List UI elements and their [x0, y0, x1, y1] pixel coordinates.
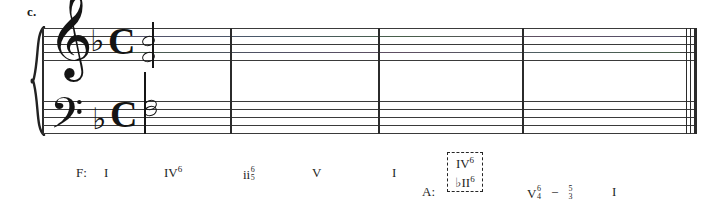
treble-clef-icon: 𝄞	[48, 0, 93, 72]
key-signature-flat-treble-icon: ♭	[90, 26, 104, 56]
figure-resolution-dash: –	[552, 185, 558, 197]
music-exercise-sheet: c. 𝄞 𝄢	[0, 0, 719, 200]
staff-line	[43, 36, 697, 37]
staff-line	[43, 44, 697, 45]
pivot-chord-old-key: IV6	[448, 157, 482, 170]
chord-numeral: I	[104, 165, 108, 180]
chord-symbol-5: I	[392, 166, 396, 179]
barline-3	[522, 28, 524, 134]
barline-2	[378, 28, 380, 134]
chord-symbol-2: IV6	[164, 166, 182, 179]
staff-line	[43, 52, 697, 53]
figure-lower: 5	[251, 174, 255, 182]
pivot-chord-new-key: ♭II6	[448, 176, 482, 189]
figured-bass-stack: 53	[569, 185, 573, 200]
figure-lower: 4	[537, 193, 541, 200]
staff-line	[43, 28, 697, 29]
modulation-key-label: A:	[422, 185, 435, 198]
figured-bass-stack: 65	[251, 166, 255, 182]
chord-figure: 6	[470, 155, 475, 165]
chord-numeral: IV	[164, 165, 178, 180]
final-chord-symbol: I	[612, 185, 616, 198]
roman-numeral-analysis: F: I IV6 ii65 V I A: V64 – 53	[0, 150, 719, 200]
final-barline-thin	[686, 28, 687, 134]
staff-line	[43, 117, 697, 118]
grand-staff-system: 𝄞 𝄢 ♭ ♭ C C	[0, 0, 719, 150]
chord-symbol-4: V	[312, 166, 321, 179]
staff-line	[43, 60, 697, 61]
final-barline-thick	[694, 28, 697, 134]
key-signature-flat-bass-icon: ♭	[92, 104, 106, 134]
chord-numeral: I	[612, 184, 616, 199]
cadential-six-four-symbol: V64	[527, 185, 541, 200]
staff-line	[43, 125, 697, 126]
barline-1	[230, 28, 232, 134]
chord-figure: 6	[178, 164, 183, 174]
time-signature-treble: C	[108, 22, 135, 60]
treble-staff	[43, 28, 697, 60]
chord-numeral: V	[527, 186, 536, 200]
chord-figure: 6	[470, 174, 475, 184]
figure-lower: 3	[569, 193, 573, 200]
chord-numeral: V	[312, 165, 321, 180]
time-signature-bass: C	[110, 95, 137, 133]
staff-line	[43, 109, 697, 110]
chord-numeral: ♭II	[455, 175, 470, 190]
final-barline-thin	[690, 28, 691, 134]
note-stem	[152, 22, 154, 68]
chord-numeral: ii	[243, 167, 250, 182]
chord-symbol-3: ii65	[243, 166, 255, 182]
bass-staff	[43, 101, 697, 133]
chord-numeral: I	[392, 165, 396, 180]
bass-clef-icon: 𝄢	[50, 92, 83, 144]
staff-line	[43, 133, 697, 134]
chord-symbol-1: I	[104, 166, 108, 179]
figured-bass-stack: 64	[537, 185, 541, 200]
home-key-label: F:	[76, 166, 87, 179]
pivot-chord-box: IV6 ♭II6	[447, 152, 483, 192]
resolution-figure: 53	[568, 185, 573, 200]
staff-line	[43, 101, 697, 102]
chord-numeral: IV	[456, 156, 470, 171]
